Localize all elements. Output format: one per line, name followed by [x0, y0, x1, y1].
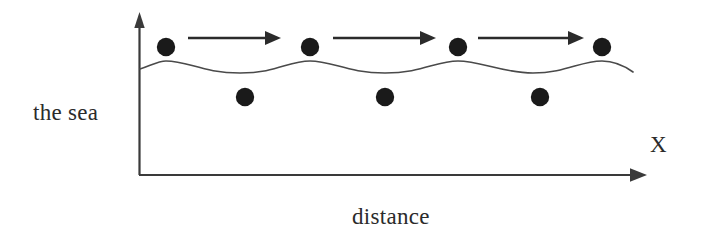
- sea-surface-wave: [140, 61, 633, 73]
- propagation-arrow-right-icon: [333, 31, 436, 45]
- trough-dot: [376, 88, 394, 106]
- x-axis-label: distance: [352, 205, 430, 228]
- x-axis: [139, 168, 647, 182]
- trough-dots: [236, 88, 549, 106]
- propagation-arrow-right-icon: [188, 31, 281, 45]
- crest-dot: [593, 38, 611, 56]
- y-axis: [134, 12, 144, 175]
- crest-dot: [449, 38, 467, 56]
- trough-dot: [531, 88, 549, 106]
- y-axis-label: the sea: [33, 101, 98, 124]
- x-axis-arrowhead-icon: [630, 168, 647, 182]
- figure-root: the sea distance X: [0, 0, 709, 247]
- propagation-arrows: [188, 31, 584, 45]
- crest-dots: [157, 38, 611, 56]
- x-axis-letter-label: X: [650, 133, 667, 156]
- trough-dot: [236, 88, 254, 106]
- propagation-arrow-right-icon: [478, 31, 584, 45]
- crest-dot: [301, 38, 319, 56]
- y-axis-arrowhead-icon: [134, 12, 144, 28]
- crest-dot: [157, 38, 175, 56]
